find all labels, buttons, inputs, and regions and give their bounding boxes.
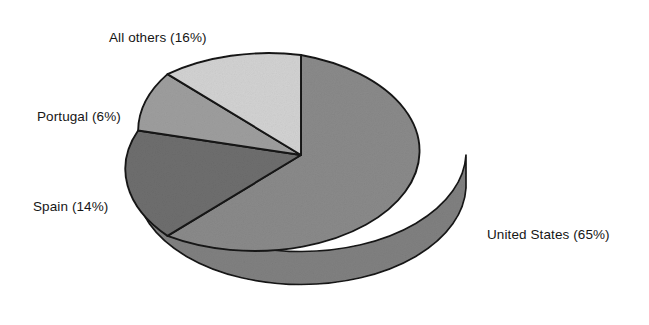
- slice-label-all-others: All others (16%): [109, 31, 207, 45]
- slice-label-united-states: United States (65%): [487, 228, 610, 242]
- pie-chart-figure: All others (16%) Portugal (6%) Spain (14…: [0, 0, 649, 325]
- pie-top-face: [125, 53, 419, 251]
- pie-chart-canvas: [0, 0, 649, 325]
- slice-label-spain: Spain (14%): [33, 200, 108, 214]
- slice-label-portugal: Portugal (6%): [37, 110, 121, 124]
